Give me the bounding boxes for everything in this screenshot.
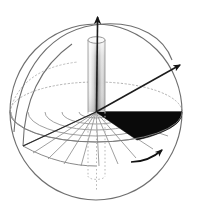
cylinder-top-cap xyxy=(88,37,105,44)
sphere-group xyxy=(10,17,182,200)
sphere-coordinate-diagram: Sphere with polar coordinate grid, verti… xyxy=(0,0,198,213)
equatorial-cutaway-front-arc xyxy=(23,146,96,166)
figure-container: Sphere with polar coordinate grid, verti… xyxy=(0,0,198,213)
radial-direction-axis xyxy=(96,65,180,112)
azimuthal-rotation-arrow xyxy=(131,150,162,162)
vertical-polar-axis xyxy=(97,17,98,112)
rotation-arc xyxy=(131,150,162,162)
